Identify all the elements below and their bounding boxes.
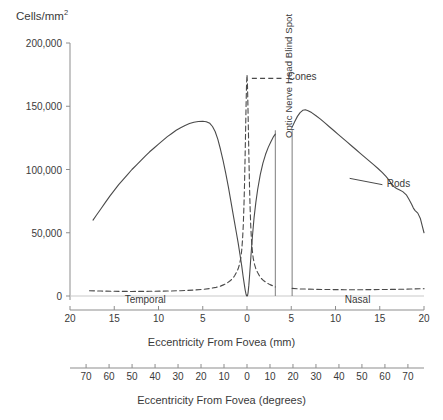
degrees-axis-tick-label: 40: [333, 371, 344, 382]
degrees-axis-tick-label: 60: [379, 371, 390, 382]
degrees-axis-tick-label: 30: [172, 371, 183, 382]
degrees-axis-tick-label: 20: [287, 371, 298, 382]
region-label: Temporal: [125, 294, 166, 305]
degrees-axis-tick-label: 40: [149, 371, 160, 382]
y-axis-tick-label: 200,000: [0, 38, 62, 49]
retina-photoreceptor-density-chart: Cells/mm2 050,000100,000150,000200,000 2…: [0, 0, 443, 420]
y-axis-tick-marks: [66, 43, 70, 296]
blind-spot-boundary-lines: [275, 130, 292, 296]
degrees-axis-tick-label: 0: [244, 371, 250, 382]
mm-axis-tick-label: 20: [418, 313, 429, 324]
degrees-axis-tick-label: 70: [402, 371, 413, 382]
y-axis-tick-label: 100,000: [0, 164, 62, 175]
mm-axis-title: Eccentricity From Fovea (mm): [0, 336, 443, 348]
y-axis-tick-label: 0: [0, 291, 62, 302]
degrees-axis-tick-label: 50: [127, 371, 138, 382]
mm-axis-tick-label: 10: [153, 313, 164, 324]
y-axis-tick-label: 50,000: [0, 227, 62, 238]
label-leader-lines: [350, 178, 383, 184]
cones-series-label: Cones: [288, 71, 317, 82]
mm-axis-tick-label: 0: [244, 313, 250, 324]
mm-axis-tick-label: 5: [200, 313, 206, 324]
mm-axis-line: [70, 306, 424, 310]
degrees-axis-tick-label: 10: [218, 371, 229, 382]
series-path-cones: [292, 288, 424, 289]
degrees-axis-title: Eccentricity From Fovea (degrees): [0, 394, 443, 406]
y-axis-tick-label: 150,000: [0, 101, 62, 112]
mm-axis-tick-label: 15: [109, 313, 120, 324]
mm-axis-tick-label: 20: [64, 313, 75, 324]
region-label: Nasal: [345, 294, 371, 305]
degrees-axis-tick-label: 30: [310, 371, 321, 382]
series-path-rods: [93, 121, 275, 296]
degrees-axis-tick-label: 10: [264, 371, 275, 382]
degrees-axis-line: [70, 364, 424, 368]
series-path-cones: [89, 75, 275, 292]
degrees-axis-tick-label: 50: [356, 371, 367, 382]
plot-canvas: [0, 0, 443, 420]
degrees-axis-tick-label: 20: [195, 371, 206, 382]
mm-axis-tick-label: 15: [374, 313, 385, 324]
mm-axis-tick-label: 5: [288, 313, 294, 324]
rods-series-label: Rods: [387, 178, 410, 189]
degrees-axis-tick-label: 70: [81, 371, 92, 382]
series-path-rods: [292, 110, 424, 233]
data-series-paths: [89, 75, 424, 296]
degrees-axis-tick-label: 60: [104, 371, 115, 382]
mm-axis-tick-label: 10: [330, 313, 341, 324]
